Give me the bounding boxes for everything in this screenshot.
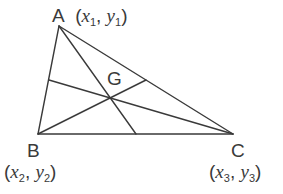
vertex-c-coordinates: (x3, y3): [209, 162, 261, 184]
vertex-a-label: A: [52, 5, 65, 26]
vertex-b-label: B: [27, 141, 40, 160]
vertex-a-coordinates: (x1, y1): [75, 5, 127, 26]
centroid-label: G: [107, 69, 122, 88]
median-from-c: [49, 80, 233, 134]
vertex-b-coordinates: (x2, y2): [4, 162, 56, 184]
vertex-a-group: A (x1, y1): [52, 6, 127, 28]
vertex-c-label: C: [231, 141, 245, 160]
